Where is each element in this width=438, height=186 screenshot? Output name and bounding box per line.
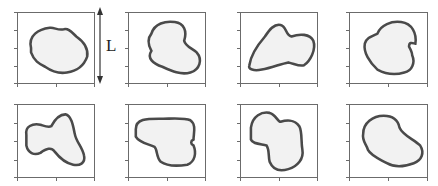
length-scale-label: L xyxy=(106,36,116,56)
shape-panel-7 xyxy=(240,104,318,178)
blob-shape-grid-figure: L xyxy=(0,0,438,186)
shape-panel-2 xyxy=(128,12,206,84)
shape-panel-1 xyxy=(17,12,95,84)
shape-panel-3 xyxy=(240,12,318,84)
shape-panel-6 xyxy=(128,104,206,178)
shape-panel-4 xyxy=(349,12,428,84)
shape-panel-5 xyxy=(17,104,95,178)
shape-panel-8 xyxy=(349,104,428,178)
